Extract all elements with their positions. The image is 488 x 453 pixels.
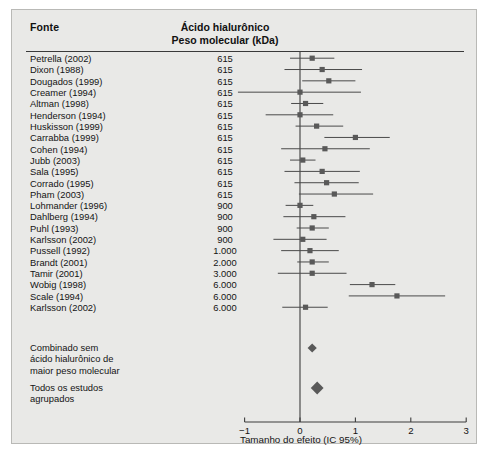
- study-molecular-weight: 3.000: [140, 268, 310, 279]
- study-label: Dahlberg (1994): [30, 211, 98, 222]
- effect-size-marker: [311, 214, 316, 219]
- summary-label-pooled-excluding: Combinado sem ácido hialurônico de maior…: [30, 342, 120, 376]
- effect-size-marker: [332, 191, 337, 196]
- summary-diamond: [311, 382, 324, 395]
- study-label: Puhl (1993): [30, 223, 78, 234]
- study-label: Dixon (1988): [30, 64, 84, 75]
- study-molecular-weight: 615: [140, 121, 310, 132]
- study-molecular-weight: 900: [140, 211, 310, 222]
- study-label: Henderson (1994): [30, 110, 106, 121]
- study-label: Altman (1998): [30, 98, 89, 109]
- effect-size-marker: [310, 271, 315, 276]
- study-label: Tamir (2001): [30, 268, 83, 279]
- study-label: Jubb (2003): [30, 155, 80, 166]
- study-molecular-weight: 615: [140, 144, 310, 155]
- column-header-mw-line2: Peso molecular (kDa): [140, 34, 310, 47]
- effect-size-marker: [322, 146, 327, 151]
- study-molecular-weight: 615: [140, 64, 310, 75]
- study-molecular-weight: 615: [140, 178, 310, 189]
- column-header-source: Fonte: [30, 21, 59, 33]
- effect-size-marker: [326, 78, 331, 83]
- effect-size-marker: [324, 180, 329, 185]
- study-label: Lohmander (1996): [30, 200, 107, 211]
- study-molecular-weight: 615: [140, 98, 310, 109]
- effect-size-marker: [369, 282, 374, 287]
- study-molecular-weight: 6.000: [140, 291, 310, 302]
- study-label: Karlsson (2002): [30, 234, 96, 245]
- study-molecular-weight: 6.000: [140, 302, 310, 313]
- study-label: Corrado (1995): [30, 178, 94, 189]
- effect-size-marker: [353, 135, 358, 140]
- study-molecular-weight: 900: [140, 200, 310, 211]
- x-axis-title-text: Tamanho do efeito (IC 95%): [240, 434, 362, 445]
- study-label: Karlsson (2002): [30, 302, 96, 313]
- effect-size-marker: [310, 225, 315, 230]
- effect-size-marker: [310, 259, 315, 264]
- study-label: Pussell (1992): [30, 245, 90, 256]
- study-label: Petrella (2002): [30, 53, 92, 64]
- study-molecular-weight: 615: [140, 166, 310, 177]
- effect-size-marker: [320, 67, 325, 72]
- study-label: Dougados (1999): [30, 76, 102, 87]
- effect-size-marker: [394, 293, 399, 298]
- x-axis-title: Tamanho do efeito (IC 95%): [12, 434, 478, 445]
- effect-size-marker: [320, 169, 325, 174]
- forest-plot-figure: Fonte Ácido hialurônico Peso molecular (…: [0, 0, 488, 453]
- study-label: Carrabba (1999): [30, 132, 99, 143]
- study-molecular-weight: 615: [140, 132, 310, 143]
- study-label: Wobig (1998): [30, 279, 86, 290]
- study-molecular-weight: 615: [140, 155, 310, 166]
- study-label: Scale (1994): [30, 291, 83, 302]
- study-molecular-weight: 615: [140, 76, 310, 87]
- study-label: Cohen (1994): [30, 144, 87, 155]
- column-header-molecular-weight: Ácido hialurônico Peso molecular (kDa): [140, 21, 310, 47]
- study-molecular-weight: 1.000: [140, 245, 310, 256]
- study-molecular-weight: 615: [140, 189, 310, 200]
- study-label: Pham (2003): [30, 189, 84, 200]
- study-molecular-weight: 2.000: [140, 257, 310, 268]
- study-molecular-weight: 615: [140, 87, 310, 98]
- effect-size-marker: [314, 124, 319, 129]
- plot-panel: Fonte Ácido hialurônico Peso molecular (…: [11, 9, 477, 444]
- study-molecular-weight: 900: [140, 234, 310, 245]
- study-molecular-weight: 900: [140, 223, 310, 234]
- header-divider: [26, 51, 464, 52]
- study-molecular-weight: 615: [140, 53, 310, 64]
- study-label: Creamer (1994): [30, 87, 96, 98]
- effect-size-marker: [310, 56, 315, 61]
- study-label: Huskisson (1999): [30, 121, 103, 132]
- summary-diamond: [308, 343, 317, 352]
- study-molecular-weight: 615: [140, 110, 310, 121]
- study-label: Brandt (2001): [30, 257, 87, 268]
- study-label: Sala (1995): [30, 166, 78, 177]
- study-molecular-weight: 6.000: [140, 279, 310, 290]
- summary-label-pooled-all: Todos os estudos agrupados: [30, 382, 103, 405]
- column-header-mw-line1: Ácido hialurônico: [140, 21, 310, 34]
